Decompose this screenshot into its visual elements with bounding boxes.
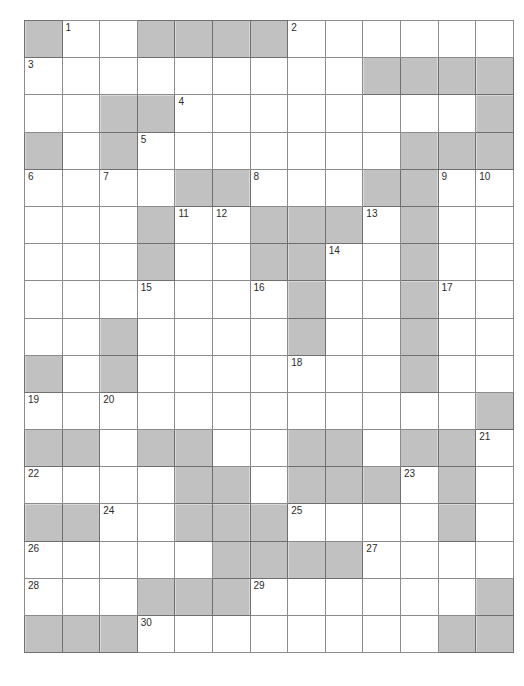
crossword-cell[interactable] (137, 392, 175, 429)
crossword-cell[interactable] (62, 578, 100, 615)
crossword-cell[interactable] (363, 95, 401, 132)
crossword-cell[interactable] (363, 132, 401, 169)
crossword-cell[interactable] (212, 430, 250, 467)
crossword-cell[interactable] (137, 318, 175, 355)
crossword-cell[interactable] (62, 206, 100, 243)
crossword-cell-numbered-19[interactable]: 19 (25, 392, 63, 429)
crossword-cell[interactable] (476, 21, 514, 58)
crossword-cell[interactable] (288, 58, 326, 95)
crossword-cell[interactable] (25, 206, 63, 243)
crossword-cell[interactable] (476, 281, 514, 318)
crossword-cell[interactable] (363, 392, 401, 429)
crossword-cell[interactable] (476, 541, 514, 578)
crossword-cell-numbered-15[interactable]: 15 (137, 281, 175, 318)
crossword-cell[interactable] (62, 132, 100, 169)
crossword-cell[interactable] (438, 355, 476, 392)
crossword-cell-numbered-6[interactable]: 6 (25, 169, 63, 206)
crossword-cell[interactable] (62, 541, 100, 578)
crossword-cell[interactable] (212, 244, 250, 281)
crossword-cell[interactable] (325, 578, 363, 615)
crossword-cell[interactable] (438, 206, 476, 243)
crossword-cell[interactable] (212, 132, 250, 169)
crossword-cell[interactable] (175, 541, 213, 578)
crossword-cell[interactable] (175, 281, 213, 318)
crossword-cell[interactable] (438, 541, 476, 578)
crossword-cell[interactable] (100, 430, 138, 467)
crossword-cell[interactable] (363, 244, 401, 281)
crossword-cell[interactable] (438, 21, 476, 58)
crossword-cell[interactable] (62, 392, 100, 429)
crossword-cell[interactable] (137, 355, 175, 392)
crossword-cell[interactable] (62, 169, 100, 206)
crossword-cell[interactable] (175, 132, 213, 169)
crossword-cell[interactable] (25, 318, 63, 355)
crossword-cell-numbered-17[interactable]: 17 (438, 281, 476, 318)
crossword-cell-numbered-21[interactable]: 21 (476, 430, 514, 467)
crossword-cell[interactable] (363, 430, 401, 467)
crossword-cell[interactable] (100, 244, 138, 281)
crossword-cell[interactable] (62, 244, 100, 281)
crossword-cell[interactable] (25, 244, 63, 281)
crossword-cell[interactable] (250, 430, 288, 467)
crossword-cell[interactable] (476, 244, 514, 281)
crossword-cell[interactable] (250, 95, 288, 132)
crossword-cell[interactable] (363, 21, 401, 58)
crossword-cell[interactable] (325, 504, 363, 541)
crossword-cell-numbered-8[interactable]: 8 (250, 169, 288, 206)
crossword-cell[interactable] (212, 616, 250, 653)
crossword-cell[interactable] (100, 58, 138, 95)
crossword-cell-numbered-9[interactable]: 9 (438, 169, 476, 206)
crossword-cell[interactable] (363, 616, 401, 653)
crossword-cell[interactable] (212, 355, 250, 392)
crossword-cell-numbered-27[interactable]: 27 (363, 541, 401, 578)
crossword-cell-numbered-5[interactable]: 5 (137, 132, 175, 169)
crossword-cell-numbered-25[interactable]: 25 (288, 504, 326, 541)
crossword-cell[interactable] (363, 318, 401, 355)
crossword-cell[interactable] (100, 578, 138, 615)
crossword-cell-numbered-10[interactable]: 10 (476, 169, 514, 206)
crossword-cell[interactable] (325, 355, 363, 392)
crossword-cell[interactable] (175, 355, 213, 392)
crossword-cell[interactable] (325, 616, 363, 653)
crossword-cell[interactable] (250, 467, 288, 504)
crossword-cell-numbered-20[interactable]: 20 (100, 392, 138, 429)
crossword-cell[interactable] (100, 541, 138, 578)
crossword-cell[interactable] (100, 206, 138, 243)
crossword-cell[interactable] (476, 467, 514, 504)
crossword-cell[interactable] (325, 281, 363, 318)
crossword-cell[interactable] (175, 318, 213, 355)
crossword-cell-numbered-24[interactable]: 24 (100, 504, 138, 541)
crossword-cell[interactable] (400, 541, 438, 578)
crossword-cell[interactable] (438, 244, 476, 281)
crossword-cell[interactable] (363, 504, 401, 541)
crossword-cell[interactable] (25, 281, 63, 318)
crossword-cell[interactable] (288, 95, 326, 132)
crossword-cell-numbered-22[interactable]: 22 (25, 467, 63, 504)
crossword-cell-numbered-18[interactable]: 18 (288, 355, 326, 392)
crossword-cell[interactable] (288, 392, 326, 429)
crossword-cell[interactable] (212, 392, 250, 429)
crossword-cell[interactable] (288, 616, 326, 653)
crossword-cell-numbered-13[interactable]: 13 (363, 206, 401, 243)
crossword-cell-numbered-1[interactable]: 1 (62, 21, 100, 58)
crossword-cell[interactable] (400, 392, 438, 429)
crossword-cell[interactable] (250, 58, 288, 95)
crossword-cell[interactable] (476, 504, 514, 541)
crossword-cell[interactable] (325, 21, 363, 58)
crossword-cell-numbered-3[interactable]: 3 (25, 58, 63, 95)
crossword-cell[interactable] (363, 281, 401, 318)
crossword-cell-numbered-23[interactable]: 23 (400, 467, 438, 504)
crossword-cell[interactable] (250, 132, 288, 169)
crossword-cell[interactable] (25, 95, 63, 132)
crossword-cell[interactable] (476, 206, 514, 243)
crossword-cell[interactable] (476, 318, 514, 355)
crossword-cell[interactable] (100, 467, 138, 504)
crossword-cell[interactable] (62, 95, 100, 132)
crossword-cell[interactable] (288, 169, 326, 206)
crossword-cell[interactable] (137, 504, 175, 541)
crossword-grid[interactable]: 1234567891011121314151617181920212223242… (24, 20, 514, 653)
crossword-cell[interactable] (325, 169, 363, 206)
crossword-cell[interactable] (400, 21, 438, 58)
crossword-cell-numbered-7[interactable]: 7 (100, 169, 138, 206)
crossword-cell[interactable] (400, 578, 438, 615)
